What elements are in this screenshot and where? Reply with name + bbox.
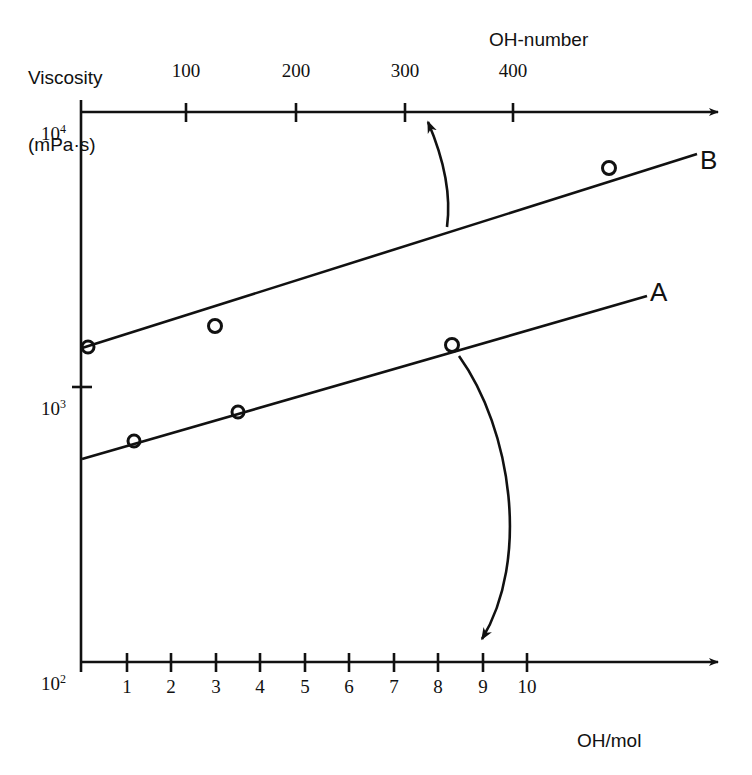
x-bottom-tick-label-3: 3 [196,676,236,698]
x-bottom-tick-label-5: 5 [285,676,325,698]
x-top-tick-label-200: 200 [271,60,321,82]
x-bottom-axis-title: OH/mol [577,730,641,752]
x-bottom-axis [80,653,718,672]
y-tick-base-1e2: 10 [41,674,60,695]
series-label-b: B [700,145,717,176]
y-axis-title-line1: Viscosity [28,67,103,89]
y-tick-exp-1e4: 4 [60,122,66,136]
x-bottom-tick-label-6: 6 [329,676,369,698]
x-bottom-tick-label-9: 9 [463,676,503,698]
x-bottom-tick-label-10: 10 [507,676,547,698]
y-tick-exp-1e3: 3 [60,397,66,411]
chart-figure: Viscosity (mPa·s) 104 103 102 100 200 30… [0,0,752,775]
y-tick-label-1e3: 103 [22,375,66,444]
x-bottom-tick-label-1: 1 [107,676,147,698]
x-top-tick-label-100: 100 [161,60,211,82]
arrow-to-bottom-axis-icon [459,356,510,639]
series-label-a: A [650,277,667,308]
x-top-tick-label-300: 300 [380,60,430,82]
arrow-to-top-axis-icon [428,122,448,227]
x-bottom-tick-label-4: 4 [240,676,280,698]
x-bottom-tick-label-2: 2 [151,676,191,698]
x-top-tick-label-400: 400 [488,60,538,82]
data-point [209,320,222,333]
data-point [603,162,616,175]
series-b-points [82,162,616,354]
x-bottom-tick-label-8: 8 [418,676,458,698]
y-tick-base-1e3: 10 [41,399,60,420]
y-tick-base-1e4: 10 [41,124,60,145]
y-tick-label-1e4: 104 [22,100,66,169]
x-top-axis [80,103,718,122]
data-point [446,339,459,352]
x-bottom-tick-label-7: 7 [374,676,414,698]
plot-canvas [0,0,752,775]
y-tick-exp-1e2: 2 [60,672,66,686]
series-b-fit-line [82,154,697,348]
x-top-axis-title: OH-number [489,29,588,51]
y-tick-label-1e2: 102 [22,650,66,719]
